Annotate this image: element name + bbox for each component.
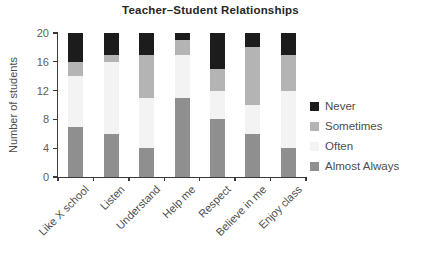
bar-segment-often xyxy=(104,62,119,134)
plot-area: 048121620Like X schoolListenUnderstandHe… xyxy=(57,33,306,178)
legend-swatch xyxy=(310,102,319,111)
x-tick-label: Help me xyxy=(160,183,197,220)
legend-label: Often xyxy=(325,140,353,152)
bar-segment-almost-always xyxy=(281,148,296,177)
bar-segment-sometimes xyxy=(104,55,119,62)
legend-swatch xyxy=(310,142,319,151)
x-tick-mark xyxy=(128,177,129,181)
y-tick-label: 16 xyxy=(37,56,49,68)
x-tick-mark xyxy=(234,177,235,181)
bar-segment-sometimes xyxy=(139,55,154,98)
bar-help-me xyxy=(175,33,190,177)
y-tick-label: 4 xyxy=(43,142,49,154)
bar-segment-almost-always xyxy=(104,134,119,177)
legend-swatch xyxy=(310,162,319,171)
x-tick-label: Like X school xyxy=(36,183,91,238)
chart-title: Teacher–Student Relationships xyxy=(0,4,421,16)
bar-segment-almost-always xyxy=(139,148,154,177)
y-tick-mark xyxy=(53,148,58,149)
legend-label: Almost Always xyxy=(325,160,399,172)
x-tick-mark xyxy=(305,177,306,181)
bar-segment-often xyxy=(139,98,154,148)
legend-item-often: Often xyxy=(310,136,399,156)
bar-understand xyxy=(139,33,154,177)
bar-enjoy-class xyxy=(281,33,296,177)
legend: NeverSometimesOftenAlmost Always xyxy=(310,96,399,176)
y-tick-label: 20 xyxy=(37,27,49,39)
y-tick-mark xyxy=(53,61,58,62)
y-tick-label: 12 xyxy=(37,85,49,97)
y-tick-mark xyxy=(53,90,58,91)
x-tick-mark xyxy=(199,177,200,181)
y-tick-mark xyxy=(53,119,58,120)
legend-item-sometimes: Sometimes xyxy=(310,116,399,136)
y-axis-label: Number of students xyxy=(7,57,19,153)
x-tick-mark xyxy=(93,177,94,181)
bar-segment-never xyxy=(104,33,119,55)
y-tick-mark xyxy=(53,32,58,33)
bar-segment-often xyxy=(210,91,225,120)
bar-segment-often xyxy=(175,55,190,98)
legend-label: Sometimes xyxy=(325,120,383,132)
bar-segment-sometimes xyxy=(175,40,190,54)
bar-segment-never xyxy=(139,33,154,55)
bar-segment-sometimes xyxy=(245,47,260,105)
bar-segment-often xyxy=(245,105,260,134)
x-tick-mark xyxy=(164,177,165,181)
x-tick-mark xyxy=(57,177,58,181)
x-tick-mark xyxy=(270,177,271,181)
bar-segment-never xyxy=(245,33,260,47)
bar-segment-often xyxy=(68,76,83,126)
bar-like-x-school xyxy=(68,33,83,177)
bar-segment-sometimes xyxy=(68,62,83,76)
y-tick-label: 0 xyxy=(43,171,49,183)
legend-item-never: Never xyxy=(310,96,399,116)
bar-segment-almost-always xyxy=(245,134,260,177)
x-tick-label: Listen xyxy=(97,183,126,212)
bar-segment-almost-always xyxy=(175,98,190,177)
bar-segment-almost-always xyxy=(68,127,83,177)
legend-swatch xyxy=(310,122,319,131)
bar-segment-sometimes xyxy=(210,69,225,91)
y-tick-label: 8 xyxy=(43,113,49,125)
bar-listen xyxy=(104,33,119,177)
bar-segment-often xyxy=(281,91,296,149)
bar-segment-never xyxy=(175,33,190,40)
bar-segment-never xyxy=(281,33,296,55)
chart-figure: Teacher–Student Relationships Number of … xyxy=(0,0,421,257)
bar-respect xyxy=(210,33,225,177)
bar-segment-never xyxy=(210,33,225,69)
bar-segment-never xyxy=(68,33,83,62)
legend-label: Never xyxy=(325,100,356,112)
legend-item-almost-always: Almost Always xyxy=(310,156,399,176)
bar-believe-in-me xyxy=(245,33,260,177)
bar-segment-sometimes xyxy=(281,55,296,91)
bar-segment-almost-always xyxy=(210,119,225,177)
